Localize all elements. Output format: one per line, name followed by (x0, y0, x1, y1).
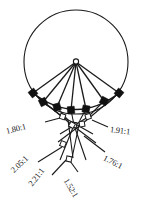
figure-canvas (0, 0, 153, 218)
leader-1-76 (84, 136, 105, 152)
apex-node (73, 59, 78, 64)
node-6 (60, 141, 67, 148)
node-4 (79, 121, 85, 127)
leader-2-21 (52, 160, 66, 175)
leader-1-80 (45, 118, 60, 122)
arc-marker-3 (53, 103, 62, 112)
arc-marker-5 (82, 105, 90, 113)
node-2 (85, 113, 92, 120)
chord-7 (76, 62, 119, 93)
leader-2-05 (38, 147, 62, 162)
leader-1-91 (92, 120, 108, 127)
geometry-figure: 1.80:1 1.91:1 1.76:1 2.05:1 2.21:1 1.52:… (0, 0, 153, 218)
node-1 (59, 113, 66, 120)
arc-marker-4 (67, 106, 75, 114)
leader-1-52 (70, 161, 78, 172)
node-7 (66, 156, 72, 162)
